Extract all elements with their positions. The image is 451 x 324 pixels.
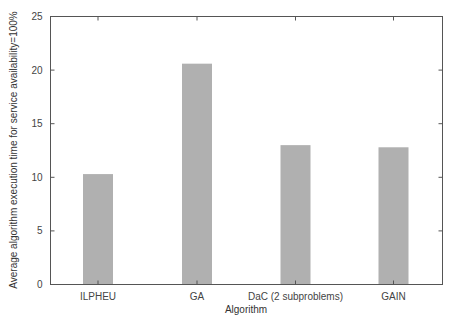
- x-tick-label: GA: [190, 291, 205, 302]
- bars: [83, 64, 409, 285]
- x-tick-label: GAIN: [381, 291, 405, 302]
- y-tick-label: 10: [31, 172, 43, 183]
- bar-chart: 0510152025 ILPHEUGADaC (2 subproblems)GA…: [0, 0, 451, 324]
- x-tick-label: ILPHEU: [80, 291, 116, 302]
- bar-dac-2-subproblems: [281, 145, 311, 284]
- y-tick-label: 0: [37, 279, 43, 290]
- x-tick-label: DaC (2 subproblems): [248, 291, 343, 302]
- y-axis-label: Average algorithm execution time for ser…: [8, 11, 19, 289]
- bar-gain: [379, 147, 409, 284]
- bar-ga: [182, 64, 212, 285]
- y-tick-label: 20: [31, 65, 43, 76]
- y-tick-label: 5: [37, 225, 43, 236]
- x-axis-label: Algorithm: [225, 304, 267, 315]
- y-tick-label: 25: [31, 11, 43, 22]
- y-tick-label: 15: [31, 118, 43, 129]
- bar-ilpheu: [83, 174, 113, 284]
- x-axis-ticks: ILPHEUGADaC (2 subproblems)GAIN: [80, 17, 406, 302]
